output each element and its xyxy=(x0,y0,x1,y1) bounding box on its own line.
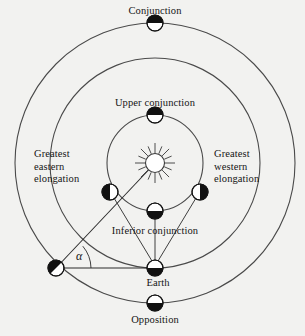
sun-symbol xyxy=(135,143,175,183)
label-greatest-western-elongation: Greatest western elongation xyxy=(214,148,282,186)
body-greatest-eastern-elongation xyxy=(102,184,118,200)
label-upper-conjunction: Upper conjunction xyxy=(93,97,217,110)
sun-disc xyxy=(146,154,165,173)
body-earth xyxy=(147,260,163,276)
label-opposition: Opposition xyxy=(112,314,198,327)
body-inferior-conjunction xyxy=(147,203,163,219)
label-greatest-eastern-elongation: Greatest eastern elongation xyxy=(34,148,96,186)
angle-marker-alpha xyxy=(83,246,91,268)
body-opposition xyxy=(147,295,163,311)
alpha-arc xyxy=(83,246,91,268)
planetary-configurations-figure: Conjunction Upper conjunction Greatest e… xyxy=(0,0,305,336)
label-conjunction: Conjunction xyxy=(104,5,206,18)
body-superior-planet-quadrature xyxy=(48,260,64,276)
label-inferior-conjunction: Inferior conjunction xyxy=(95,225,215,238)
body-greatest-western-elongation xyxy=(192,184,208,200)
label-earth: Earth xyxy=(130,277,186,290)
label-angle-alpha: α xyxy=(76,249,82,264)
